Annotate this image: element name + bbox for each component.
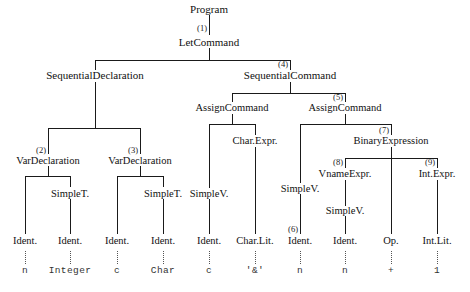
edge-vardecl2-bar [117, 176, 163, 177]
edge-charexpr-to-charlit [255, 147, 256, 234]
edge-intlit-to-terminal [437, 251, 438, 264]
edge-assign1-stem [232, 114, 233, 124]
edge-binaryexpr-stem [391, 147, 392, 158]
edge-seqdecl-bar [48, 128, 141, 129]
node-sequential-declaration: SequentialDeclaration [46, 70, 144, 81]
terminal-amp: '&' [246, 266, 264, 276]
node-simple-v-2: SimpleV. [281, 183, 320, 194]
edge-letcommand-bar [95, 60, 291, 61]
edge-vardecl2-to-simplet2 [163, 176, 164, 187]
tag-1: (1) [197, 24, 207, 33]
terminal-n-2: n [297, 266, 303, 276]
tag-3: (3) [128, 146, 138, 155]
edge-charlit-to-terminal [255, 251, 256, 264]
node-simple-v-3: SimpleV. [326, 205, 365, 216]
ast-diagram-canvas: Program LetCommand SequentialDeclaration… [0, 0, 470, 292]
edge-assign2-stem [345, 114, 346, 124]
node-let-command: LetCommand [179, 37, 240, 48]
node-char-expr: Char.Expr. [233, 135, 278, 146]
edge-ident2-to-terminal [70, 251, 71, 264]
node-ident-3: Ident. [105, 235, 129, 246]
edge-vnameexpr-to-simplev3 [345, 180, 346, 206]
tag-6: (6) [288, 225, 298, 234]
edge-seqcmd-to-assign2 [345, 93, 346, 102]
edge-simplev1-to-ident5 [209, 199, 210, 234]
terminal-integer: Integer [49, 266, 92, 276]
node-program: Program [190, 4, 228, 15]
node-ident-7: Ident. [333, 235, 357, 246]
edge-simplev3-to-ident7 [345, 216, 346, 234]
edge-assign1-bar [209, 124, 256, 125]
node-vname-expr: VnameExpr. [319, 168, 372, 179]
node-assign-command-2: AssignCommand [309, 102, 382, 113]
edge-op-to-terminal [391, 251, 392, 264]
edge-simplet1-to-ident2 [70, 199, 71, 234]
node-ident-4: Ident. [151, 235, 175, 246]
node-simple-v-1: SimpleV. [190, 188, 229, 199]
edge-ident6-to-terminal [300, 251, 301, 264]
node-op: Op. [383, 235, 398, 246]
edge-ident7-to-terminal [345, 251, 346, 264]
node-int-lit: Int.Lit. [422, 235, 451, 246]
edge-simplev2-to-ident6 [300, 194, 301, 234]
tag-5: (5) [333, 93, 343, 102]
edge-binaryexpr-to-op [391, 158, 392, 234]
node-ident-6: Ident. [288, 235, 312, 246]
node-var-declaration-2: VarDeclaration [108, 155, 172, 166]
edge-intexpr-to-intlit [437, 180, 438, 234]
edge-assign1-to-charexpr [255, 124, 256, 135]
edge-assign1-to-simplev1 [209, 124, 210, 188]
node-sequential-command: SequentialCommand [244, 70, 336, 81]
terminal-c-1: c [114, 266, 120, 276]
edge-vardecl1-to-simplet1 [70, 176, 71, 187]
edge-seqcmd-stem [290, 82, 291, 93]
edge-seqcmd-bar [232, 93, 346, 94]
edge-vardecl2-stem [140, 166, 141, 176]
edge-vardecl1-stem [48, 166, 49, 176]
edge-simplet2-to-ident4 [163, 199, 164, 234]
tag-9: (9) [425, 158, 435, 167]
edge-seqdecl-stem [95, 82, 96, 128]
terminal-c-2: c [206, 266, 212, 276]
node-var-declaration-1: VarDeclaration [16, 155, 80, 166]
edge-seqdecl-to-vardecl1 [48, 128, 49, 154]
node-int-expr: Int.Expr. [419, 168, 456, 179]
terminal-n-3: n [342, 266, 348, 276]
node-ident-1: Ident. [13, 235, 37, 246]
node-simple-t-1: SimpleT. [51, 188, 89, 199]
tag-7: (7) [379, 126, 389, 135]
edge-assign2-to-simplev2 [300, 124, 301, 183]
node-ident-5: Ident. [197, 235, 221, 246]
edge-letcommand-stem [209, 48, 210, 60]
tag-4: (4) [278, 60, 288, 69]
edge-assign2-to-binaryexpr [391, 124, 392, 135]
edge-binaryexpr-to-vnameexpr [345, 158, 346, 168]
edge-ident1-to-terminal [25, 251, 26, 264]
edge-ident3-to-terminal [117, 251, 118, 264]
terminal-plus: + [388, 266, 394, 276]
edge-vardecl2-to-ident3 [117, 176, 118, 234]
tag-2: (2) [36, 146, 46, 155]
node-ident-2: Ident. [58, 235, 82, 246]
edge-program-letcommand [209, 15, 210, 35]
terminal-n-1: n [22, 266, 28, 276]
edge-binaryexpr-to-intexpr [437, 158, 438, 168]
edge-seqdecl-to-vardecl2 [140, 128, 141, 154]
terminal-char: Char [151, 266, 175, 276]
node-simple-t-2: SimpleT. [144, 188, 182, 199]
terminal-one: 1 [434, 266, 440, 276]
edge-vardecl1-to-ident1 [25, 176, 26, 234]
node-binary-expression: BinaryExpression [353, 135, 428, 146]
tag-8: (8) [333, 158, 343, 167]
node-assign-command-1: AssignCommand [196, 102, 269, 113]
edge-ident4-to-terminal [163, 251, 164, 264]
edge-ident5-to-terminal [209, 251, 210, 264]
node-char-lit: Char.Lit. [236, 235, 273, 246]
edge-seqcmd-to-assign1 [232, 93, 233, 102]
edge-vardecl1-bar [25, 176, 71, 177]
